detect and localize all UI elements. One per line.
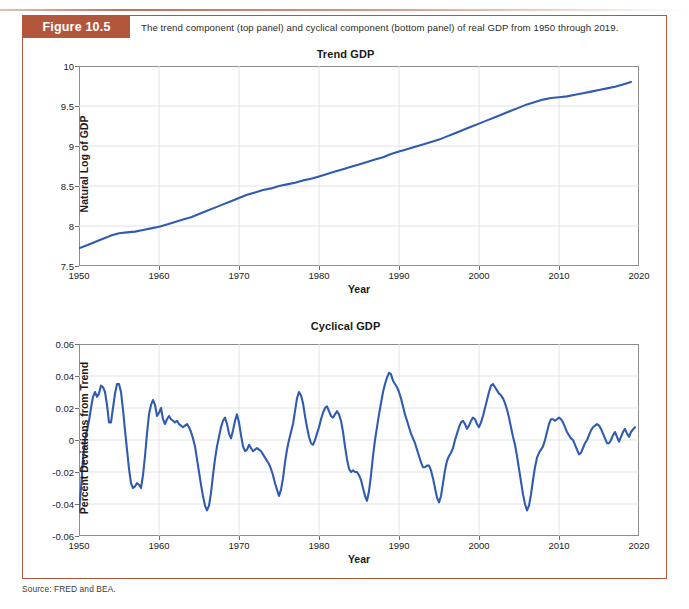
y-tick-label: 0.02 [56,403,75,414]
x-tick-label: 1970 [228,270,249,281]
x-tick-mark [399,266,400,270]
x-tick-label: 2020 [628,540,649,551]
x-tick-label: 2000 [468,270,489,281]
y-tick-mark [75,536,79,537]
figure-caption-bar: Figure 10.5 The trend component (top pan… [22,15,667,39]
plot-area-cyclical: Percent Deviations from Trend Year -0.06… [79,344,639,536]
x-tick-mark [319,536,320,540]
figure-page: Figure 10.5 The trend component (top pan… [0,0,689,609]
y-tick-mark [75,146,79,147]
y-tick-label: 0.04 [56,371,75,382]
x-tick-mark [319,266,320,270]
y-tick-mark [75,226,79,227]
x-tick-label: 1960 [148,270,169,281]
x-tick-label: 1990 [388,270,409,281]
x-tick-mark [559,266,560,270]
x-tick-label: 2010 [548,270,569,281]
chart-title-cyclical: Cyclical GDP [23,320,668,332]
y-tick-mark [75,266,79,267]
y-tick-mark [75,376,79,377]
y-tick-label: 0.06 [56,339,75,350]
x-tick-label: 1970 [228,540,249,551]
page-top-rule [0,9,689,11]
plot-svg-trend [79,66,639,266]
x-tick-label: 2000 [468,540,489,551]
y-tick-label: 9 [69,141,74,152]
plot-area-trend: Natural Log of GDP Year 7.588.599.510195… [79,66,639,266]
y-axis-title-cyclical: Percent Deviations from Trend [78,328,90,548]
y-tick-mark [75,504,79,505]
y-tick-mark [75,440,79,441]
x-tick-label: 2010 [548,540,569,551]
y-tick-mark [75,66,79,67]
panel-trend-gdp: Trend GDP Natural Log of GDP Year 7.588.… [23,42,668,300]
x-tick-label: 1990 [388,540,409,551]
y-tick-label: 0 [69,435,74,446]
x-axis-title-trend: Year [79,283,639,295]
y-tick-label: 8 [69,221,74,232]
x-tick-label: 1950 [68,270,89,281]
x-tick-mark [559,536,560,540]
x-tick-mark [239,536,240,540]
figure-body: Trend GDP Natural Log of GDP Year 7.588.… [22,38,667,579]
x-tick-label: 2020 [628,270,649,281]
figure-number-tag: Figure 10.5 [23,16,130,38]
y-tick-mark [75,472,79,473]
x-tick-mark [159,266,160,270]
x-tick-label: 1950 [68,540,89,551]
y-tick-mark [75,186,79,187]
y-tick-mark [75,344,79,345]
x-tick-label: 1980 [308,540,329,551]
y-tick-label: 8.5 [61,181,74,192]
x-tick-mark [479,266,480,270]
x-tick-label: 1980 [308,270,329,281]
y-tick-label: 10 [63,61,74,72]
figure-caption-text: The trend component (top panel) and cycl… [130,16,666,38]
x-tick-label: 1960 [148,540,169,551]
plot-svg-cyclical [79,344,639,536]
x-tick-mark [479,536,480,540]
x-tick-mark [159,536,160,540]
y-tick-label: -0.04 [52,499,74,510]
y-tick-label: 9.5 [61,101,74,112]
panel-cyclical-gdp: Cyclical GDP Percent Deviations from Tre… [23,306,668,574]
x-tick-mark [239,266,240,270]
y-tick-mark [75,408,79,409]
y-tick-mark [75,106,79,107]
x-tick-mark [399,536,400,540]
y-tick-label: -0.02 [52,467,74,478]
chart-title-trend: Trend GDP [23,48,668,60]
figure-source: Source: FRED and BEA. [22,584,116,594]
x-axis-title-cyclical: Year [79,553,639,565]
y-axis-title-trend: Natural Log of GDP [78,84,90,244]
